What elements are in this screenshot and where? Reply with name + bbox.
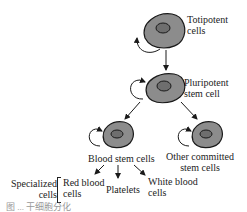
label-red-blood-cells: Red blood cells bbox=[63, 177, 104, 199]
label-pluripotent: Pluripotent stem cell bbox=[184, 77, 228, 99]
self-renewal-arrow-pluripotent bbox=[131, 80, 145, 99]
blood-stem-cell-icon bbox=[103, 122, 133, 148]
pluripotent-cell-icon bbox=[146, 74, 185, 103]
label-white-blood-cells: White blood cells bbox=[148, 176, 198, 198]
arrow-to-blood-stem bbox=[125, 102, 140, 119]
stem-cell-diagram: Totipotent cells Pluripotent stem cell B… bbox=[0, 0, 247, 212]
label-other-committed: Other committed stem cells bbox=[165, 151, 235, 173]
totipotent-cell-icon bbox=[144, 14, 185, 48]
other-committed-cell-icon bbox=[192, 122, 222, 148]
label-blood-stem: Blood stem cells bbox=[88, 153, 155, 164]
label-platelets: Platelets bbox=[106, 184, 140, 195]
arrow-to-other-committed bbox=[181, 102, 197, 119]
figure-caption: 图 ... 干细胞分化 bbox=[6, 200, 71, 212]
self-renewal-arrow-blood-stem bbox=[89, 129, 102, 146]
arrow-to-white-blood bbox=[134, 165, 145, 175]
self-renewal-arrow-other bbox=[178, 129, 191, 146]
label-totipotent: Totipotent cells bbox=[187, 14, 228, 36]
arrow-to-red-blood bbox=[95, 165, 104, 174]
label-specialized-cells: Specialized cells bbox=[4, 178, 57, 200]
